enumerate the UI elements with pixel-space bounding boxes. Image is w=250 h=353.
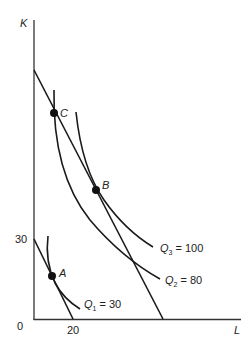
point-c-label: C: [60, 107, 68, 119]
point-a: [48, 272, 56, 280]
q3-label: Q3 = 100: [160, 242, 203, 256]
q2-label-eq: = 80: [177, 274, 202, 286]
k-tick-30: 30: [15, 233, 27, 245]
l-axis-label: L: [234, 324, 240, 336]
isoquant-diagram: K L 0 30 20 A B C Q1 = 30 Q2 = 80 Q3 = 1…: [0, 0, 250, 353]
origin-label: 0: [17, 320, 23, 332]
point-c: [50, 109, 58, 117]
q3-label-eq: = 100: [172, 242, 203, 254]
k-axis-label: K: [20, 17, 28, 29]
point-b-label: B: [102, 179, 109, 191]
point-a-label: A: [58, 267, 66, 279]
q1-label-eq: = 30: [96, 298, 121, 310]
l-tick-20: 20: [67, 324, 79, 336]
point-b: [92, 186, 100, 194]
q1-label: Q1 = 30: [84, 298, 121, 312]
q2-label: Q2 = 80: [165, 274, 202, 288]
